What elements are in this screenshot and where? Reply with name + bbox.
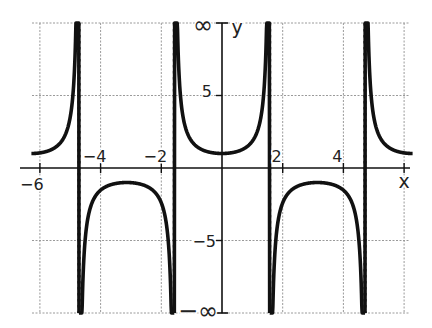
x-axis-label: x (398, 170, 409, 192)
y-tick-label: −5 (192, 232, 216, 251)
infinity-label: ∞ (193, 11, 213, 39)
sec-branch (270, 183, 365, 314)
neg-infinity-label: −∞ (178, 297, 218, 325)
y-axis-label: y (231, 16, 242, 38)
x-tick-label: 4 (332, 147, 342, 166)
secant-plot: −6−4−2245−5∞−∞yx (0, 0, 432, 328)
sec-branch (79, 183, 174, 314)
x-tick-label: 2 (272, 147, 282, 166)
x-tick-label: −4 (83, 147, 107, 166)
y-tick-label: 5 (202, 82, 212, 101)
x-tick-label: −2 (144, 147, 168, 166)
x-tick-label: −6 (20, 175, 44, 194)
